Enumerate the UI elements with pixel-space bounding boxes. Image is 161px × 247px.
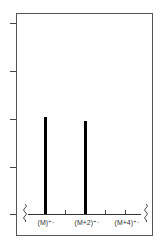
bar-m2 <box>84 121 87 214</box>
x-label-m4: (M+4)⁺· <box>115 219 140 227</box>
x-tick-m1 <box>65 210 66 214</box>
x-label-m2: (M+2)⁺· <box>75 219 100 227</box>
bar-m <box>44 117 47 214</box>
x-label-m: (M)⁺· <box>38 219 55 227</box>
y-tick-75 <box>10 71 16 72</box>
y-tick-100 <box>10 23 16 24</box>
y-tick-25 <box>10 167 16 168</box>
x-tick-m3 <box>105 210 106 214</box>
y-tick-50 <box>10 119 16 120</box>
axis-break-right-icon <box>143 204 149 222</box>
axis-break-left-icon <box>22 204 28 222</box>
y-tick-0 <box>10 214 16 215</box>
x-tick-m4 <box>125 210 126 214</box>
x-axis-line <box>28 214 141 215</box>
